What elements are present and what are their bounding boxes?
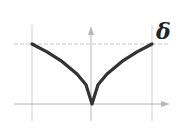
y-axis-arrow-icon [88, 26, 94, 35]
x-axis-arrow-icon [161, 101, 170, 107]
curve [32, 44, 152, 104]
delta-label: δ [156, 18, 171, 44]
